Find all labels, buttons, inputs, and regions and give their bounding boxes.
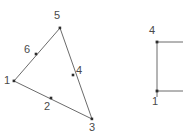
node-marker-2	[50, 97, 53, 100]
triangle-node-label-2: 2	[44, 101, 50, 112]
triangle-node-label-6: 6	[24, 44, 30, 55]
diagram-canvas: 1 5 3 6 4 2 4 1	[0, 0, 183, 140]
rect-node-marker-4	[156, 41, 159, 44]
rectangle-node-label-4: 4	[149, 25, 155, 36]
rectangle-edges	[157, 42, 183, 97]
mesh-diagram	[0, 0, 183, 140]
triangle-node-label-5: 5	[54, 10, 60, 21]
triangle-node-label-1: 1	[4, 75, 10, 86]
node-marker-5	[59, 27, 62, 30]
rect-node-marker-1	[156, 90, 159, 93]
node-marker-3	[91, 118, 94, 121]
triangle-node-label-3: 3	[89, 122, 95, 133]
triangle-node-label-4: 4	[76, 65, 82, 76]
rectangle-node-label-1: 1	[152, 96, 158, 107]
node-marker-4	[72, 74, 75, 77]
node-marker-6	[35, 53, 38, 56]
node-marker-1	[13, 80, 16, 83]
